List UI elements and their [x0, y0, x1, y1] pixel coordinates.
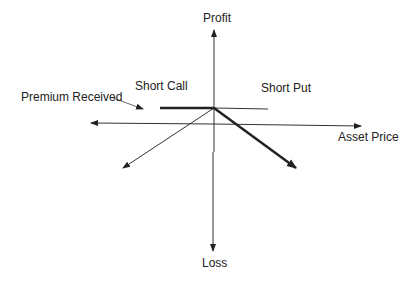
short-put-line — [123, 108, 268, 168]
short-call-label: Short Call — [135, 80, 188, 93]
premium-received-label: Premium Received — [21, 91, 122, 104]
asset-price-axis — [91, 123, 361, 126]
loss-label: Loss — [202, 257, 227, 270]
short-put-label: Short Put — [261, 82, 311, 95]
short-call-line — [160, 108, 296, 168]
profit-label: Profit — [203, 12, 231, 25]
asset-price-label: Asset Price — [338, 131, 399, 144]
profit-loss-axis — [213, 30, 214, 251]
payoff-diagram: Profit Loss Asset Price Short Call Short… — [0, 0, 410, 281]
